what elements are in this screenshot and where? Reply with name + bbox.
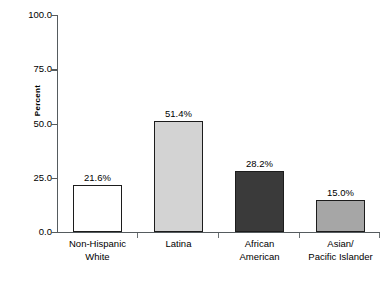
bar-value-label: 51.4% <box>165 108 192 119</box>
x-category-label-line: Latina <box>166 238 192 251</box>
y-tick-mark <box>51 15 57 16</box>
bar-value-label: 28.2% <box>246 158 273 169</box>
x-tick-mark <box>379 233 380 238</box>
y-axis-line <box>57 15 58 233</box>
bar-latina <box>154 121 203 233</box>
y-tick-mark <box>51 69 57 70</box>
x-category-label: Asian/ Pacific Islander <box>308 238 372 263</box>
bar-chart: Percent 100.0 75.0 50.0 25.0 0.0 21.6% 5… <box>0 0 390 287</box>
x-category-label: Latina <box>166 238 192 251</box>
y-tick-label: 25.0 <box>8 173 52 183</box>
bar-value-label: 15.0% <box>327 187 354 198</box>
y-tick-mark <box>51 178 57 179</box>
x-tick-mark <box>299 233 300 238</box>
y-tick-label: 50.0 <box>8 119 52 129</box>
x-category-label-line: White <box>69 251 126 264</box>
y-tick-mark <box>51 232 57 233</box>
x-category-label: Non-Hispanic White <box>69 238 126 263</box>
x-category-label-line: Non-Hispanic <box>69 238 126 251</box>
bar-african-american <box>235 171 284 232</box>
y-tick-label: 75.0 <box>8 64 52 74</box>
bar-value-label: 21.6% <box>84 172 111 183</box>
y-axis-tick-labels: 100.0 75.0 50.0 25.0 0.0 <box>8 0 52 287</box>
y-tick-label: 0.0 <box>8 227 52 237</box>
x-category-label-line: African <box>239 238 279 251</box>
y-tick-mark <box>51 124 57 125</box>
x-category-label-line: Pacific Islander <box>308 251 372 264</box>
x-category-label: African American <box>239 238 279 263</box>
bar-asian-pacific-islander <box>316 200 365 233</box>
x-category-label-line: Asian/ <box>308 238 372 251</box>
x-tick-mark <box>218 233 219 238</box>
x-tick-mark <box>137 233 138 238</box>
x-category-label-line: American <box>239 251 279 264</box>
y-tick-label: 100.0 <box>8 10 52 20</box>
bar-non-hispanic-white <box>73 185 122 232</box>
